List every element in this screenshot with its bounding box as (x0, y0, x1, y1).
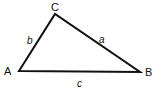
vertex-label-c: C (51, 1, 59, 13)
triangle-diagram: C A B b a c (0, 0, 165, 93)
side-label-b: b (27, 35, 33, 46)
side-label-c: c (77, 78, 82, 89)
vertex-label-b: B (145, 66, 152, 78)
triangle-abc (19, 14, 140, 72)
side-label-a: a (99, 34, 105, 45)
vertex-label-a: A (4, 65, 12, 77)
